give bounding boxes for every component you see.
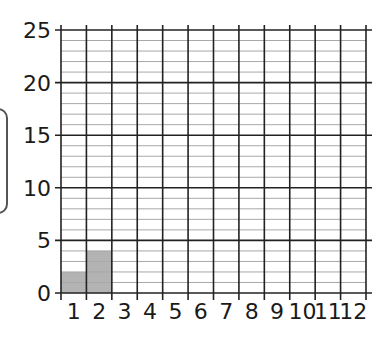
x-tick-label: 12 [339, 299, 367, 324]
y-tick-label: 10 [23, 176, 51, 201]
x-tick-label: 4 [143, 299, 157, 324]
x-tick-label: 7 [219, 299, 233, 324]
x-tick-label: 3 [118, 299, 132, 324]
x-tick-label: 10 [288, 299, 316, 324]
y-tick-label: 25 [23, 18, 51, 43]
bar-chart: 0510152025123456789101112 [0, 0, 380, 342]
x-tick-label: 9 [270, 299, 284, 324]
x-tick-label: 8 [245, 299, 259, 324]
y-tick-label: 20 [23, 71, 51, 96]
x-tick-label: 5 [168, 299, 182, 324]
x-tick-label: 1 [67, 299, 81, 324]
x-tick-label: 6 [194, 299, 208, 324]
y-tick-label: 15 [23, 123, 51, 148]
y-tick-label: 0 [37, 281, 51, 306]
y-tick-label: 5 [37, 228, 51, 253]
x-tick-label: 2 [92, 299, 106, 324]
x-tick-label: 11 [314, 299, 342, 324]
